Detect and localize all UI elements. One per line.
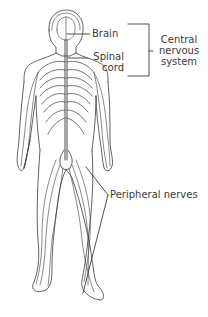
label-spinal: Spinal (90, 51, 124, 62)
thoracic-nerves (40, 61, 92, 134)
label-cns-system: system (154, 56, 204, 67)
label-peripheral-nerves: Peripheral nerves (110, 189, 198, 200)
label-cns-central: Central (154, 34, 204, 45)
label-cns-nervous: nervous (154, 45, 204, 56)
label-cord: cord (90, 62, 124, 73)
nervous-system-diagram: Brain Spinal cord Central nervous system… (0, 0, 208, 317)
central-nervous-system (57, 17, 75, 160)
label-brain: Brain (92, 28, 118, 39)
peripheral-leader-upper (86, 167, 108, 195)
cns-bracket (128, 24, 149, 76)
